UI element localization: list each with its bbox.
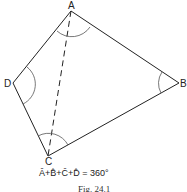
angle-sum-formula: Â+B̂+Ĉ+D̂ = 360° [39, 168, 109, 178]
figure-caption: Fig. 24.1 [78, 184, 110, 192]
angle-arc-C [38, 133, 68, 145]
angle-arc-D [23, 67, 35, 104]
angle-arc-B [158, 72, 162, 93]
vertex-label-B: B [180, 79, 187, 89]
vertex-label-A: A [68, 1, 75, 11]
vertex-label-D: D [4, 79, 11, 89]
vertex-label-C: C [45, 157, 52, 167]
quadrilateral-diagram [0, 0, 187, 192]
quadrilateral-ABCD [13, 11, 179, 156]
angle-arc-A [57, 27, 90, 37]
